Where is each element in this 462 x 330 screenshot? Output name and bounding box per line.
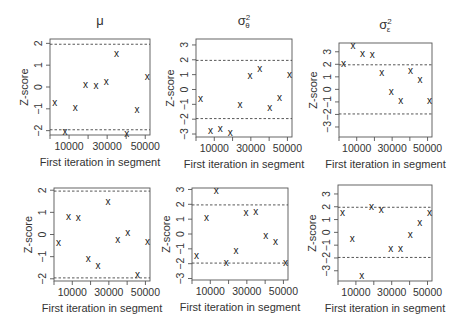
y-tick-label: −2 xyxy=(321,108,333,120)
data-point-marker: x xyxy=(340,207,345,218)
y-tick-label: 3 xyxy=(320,191,332,197)
y-tick-label: 2 xyxy=(32,40,44,46)
plot-frame xyxy=(50,39,150,135)
x-tick-label: 30000 xyxy=(94,286,123,298)
x-tick-label: 50000 xyxy=(413,286,442,298)
y-tick-label: 3 xyxy=(321,49,333,55)
data-point-marker: x xyxy=(417,217,422,228)
x-axis-label: First iteration in segment xyxy=(180,301,300,313)
y-tick-label: −3 xyxy=(321,121,333,133)
data-point-marker: x xyxy=(398,95,403,106)
data-point-marker: x xyxy=(350,40,355,51)
x-axis-label: First iteration in segment xyxy=(325,158,445,170)
z-score-figure: 100003000050000−2−1012Z-scoreFirst itera… xyxy=(0,0,462,330)
y-tick-label: −1 xyxy=(174,243,186,255)
data-point-marker: x xyxy=(86,253,91,264)
y-tick-label: −1 xyxy=(321,96,333,108)
data-point-marker: x xyxy=(135,269,140,280)
data-point-marker: x xyxy=(247,70,252,81)
panel-1: 100003000050000−2−1012Z-scoreFirst itera… xyxy=(18,13,160,168)
data-point-marker: x xyxy=(341,58,346,69)
data-point-marker: x xyxy=(389,86,394,97)
y-tick-label: −1 xyxy=(320,239,332,251)
y-tick-label: 1 xyxy=(32,62,44,68)
data-point-marker: x xyxy=(56,237,61,248)
plot-frame xyxy=(54,188,150,281)
data-point-marker: x xyxy=(76,212,81,223)
data-point-marker: x xyxy=(427,95,432,106)
data-point-marker: x xyxy=(63,126,68,137)
panel-title: μ xyxy=(96,13,104,28)
panel-title: σ2θ xyxy=(238,13,251,30)
data-point-marker: x xyxy=(238,99,243,110)
panel-title: σ2ε xyxy=(379,17,392,34)
y-tick-label: −2 xyxy=(36,273,48,285)
data-point-marker: x xyxy=(267,102,272,113)
x-axis-label: First iteration in segment xyxy=(40,156,160,168)
y-axis-label: Z-score xyxy=(307,71,319,108)
panel-6: 100003000050000−3−2−10123Z-scoreFirst it… xyxy=(306,185,445,314)
data-point-marker: x xyxy=(114,48,119,59)
panel-4: 100003000050000−2−1012Z-scoreFirst itera… xyxy=(22,187,162,314)
data-point-marker: x xyxy=(359,270,364,281)
x-axis-label: First iteration in segment xyxy=(42,302,162,314)
data-point-marker: x xyxy=(283,257,288,268)
y-tick-label: −2 xyxy=(178,113,190,125)
x-tick-label: 50000 xyxy=(269,285,298,297)
x-tick-label: 50000 xyxy=(131,140,160,152)
data-point-marker: x xyxy=(257,63,262,74)
y-tick-label: 2 xyxy=(178,57,190,63)
data-point-marker: x xyxy=(218,123,223,134)
y-tick-label: 0 xyxy=(36,231,48,237)
data-point-marker: x xyxy=(287,69,292,80)
y-tick-label: −1 xyxy=(178,98,190,110)
data-point-marker: x xyxy=(66,211,71,222)
data-point-marker: x xyxy=(228,127,233,138)
data-point-marker: x xyxy=(104,76,109,87)
y-tick-label: 0 xyxy=(320,229,332,235)
data-point-marker: x xyxy=(198,93,203,104)
y-tick-label: −3 xyxy=(178,128,190,140)
data-point-marker: x xyxy=(408,65,413,76)
x-tick-label: 30000 xyxy=(236,142,265,154)
y-tick-label: −3 xyxy=(174,272,186,284)
data-point-marker: x xyxy=(208,125,213,136)
x-tick-label: 10000 xyxy=(54,140,83,152)
x-axis-label: First iteration in segment xyxy=(184,158,304,170)
y-tick-label: 0 xyxy=(32,84,44,90)
x-tick-label: 10000 xyxy=(200,142,229,154)
data-point-marker: x xyxy=(263,230,268,241)
data-point-marker: x xyxy=(204,212,209,223)
y-tick-label: 1 xyxy=(36,209,48,215)
y-tick-label: 0 xyxy=(178,86,190,92)
data-point-marker: x xyxy=(350,233,355,244)
data-point-marker: x xyxy=(234,245,239,256)
panel-5: 100003000050000−3−2−10123Z-scoreFirst it… xyxy=(160,185,300,313)
data-point-marker: x xyxy=(125,227,130,238)
data-point-marker: x xyxy=(93,80,98,91)
data-point-marker: x xyxy=(379,67,384,78)
y-tick-label: −2 xyxy=(32,124,44,136)
data-point-marker: x xyxy=(408,229,413,240)
y-tick-label: 2 xyxy=(321,61,333,67)
data-point-marker: x xyxy=(124,128,129,139)
data-point-marker: x xyxy=(379,204,384,215)
y-axis-label: Z-score xyxy=(164,69,176,106)
x-tick-label: 30000 xyxy=(377,286,406,298)
data-point-marker: x xyxy=(214,185,219,196)
figure-canvas: 100003000050000−2−1012Z-scoreFirst itera… xyxy=(0,0,462,330)
x-axis-label: First iteration in segment xyxy=(325,302,445,314)
y-tick-label: 2 xyxy=(320,204,332,210)
y-tick-label: 0 xyxy=(174,231,186,237)
data-point-marker: x xyxy=(398,243,403,254)
data-point-marker: x xyxy=(145,71,150,82)
y-axis-label: Z-score xyxy=(306,214,318,251)
y-tick-label: −2 xyxy=(174,258,186,270)
y-tick-label: 1 xyxy=(320,216,332,222)
y-axis-label: Z-score xyxy=(160,215,172,252)
data-point-marker: x xyxy=(360,48,365,59)
x-tick-label: 10000 xyxy=(58,286,87,298)
plot-frame xyxy=(192,188,288,280)
x-tick-label: 30000 xyxy=(93,140,122,152)
data-point-marker: x xyxy=(273,236,278,247)
